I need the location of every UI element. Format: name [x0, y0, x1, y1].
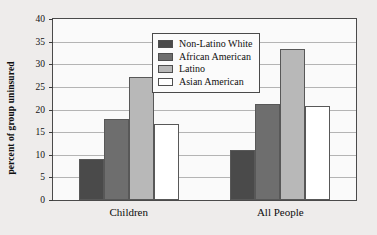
y-axis-tick-label: 40	[0, 14, 45, 24]
legend-swatch-non-latino-white	[158, 40, 173, 48]
bar	[129, 77, 154, 200]
legend-item: Latino	[158, 63, 252, 76]
legend-label: Latino	[179, 64, 205, 74]
legend-item: African American	[158, 51, 252, 64]
legend-label: Asian American	[179, 77, 244, 87]
y-axis-tick-label: 35	[0, 37, 45, 47]
bar	[280, 49, 305, 200]
y-axis-tick-label: 20	[0, 105, 45, 115]
x-axis-category-label: All People	[205, 206, 357, 218]
bar	[230, 150, 255, 200]
x-axis-category-label: Children	[53, 206, 205, 218]
y-axis-tick-label: 0	[0, 195, 45, 205]
y-axis-tick-label: 10	[0, 150, 45, 160]
legend: Non-Latino White African American Latino…	[152, 33, 260, 93]
legend-swatch-asian-american	[158, 78, 173, 86]
bar-chart: percent of group uninsured 0510152025303…	[0, 0, 377, 235]
legend-swatch-latino	[158, 65, 173, 73]
legend-item: Asian American	[158, 76, 252, 89]
bar	[104, 119, 129, 200]
y-axis-tick-label: 30	[0, 59, 45, 69]
y-axis-tick-label: 15	[0, 127, 45, 137]
bar	[255, 104, 280, 200]
y-axis-tick-label: 5	[0, 172, 45, 182]
bar	[305, 106, 330, 200]
legend-label: African American	[179, 52, 251, 62]
legend-swatch-african-american	[158, 53, 173, 61]
legend-item: Non-Latino White	[158, 38, 252, 51]
bar	[79, 159, 104, 200]
y-axis-tick-label: 25	[0, 82, 45, 92]
bar	[154, 124, 179, 200]
legend-label: Non-Latino White	[179, 39, 252, 49]
y-axis-tick-mark	[49, 200, 53, 201]
